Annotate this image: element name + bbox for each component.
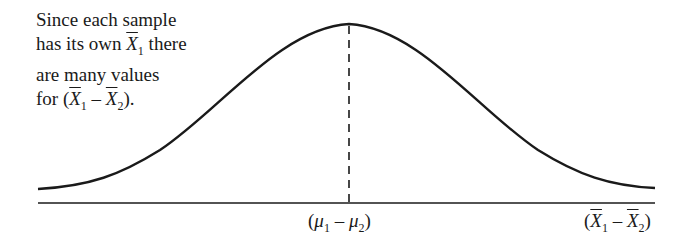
annotation-line-3: are many values — [36, 63, 187, 87]
annotation-line-4: for (X1 – X2). — [36, 87, 187, 118]
annotation-text: Since each sample has its own X1 there a… — [36, 8, 187, 118]
x-axis-label: (X1 – X2) — [584, 210, 651, 236]
center-mean-label: (μ1 – μ2) — [308, 210, 371, 236]
annotation-line-1: Since each sample — [36, 8, 187, 32]
annotation-line-2: has its own X1 there — [36, 32, 187, 63]
